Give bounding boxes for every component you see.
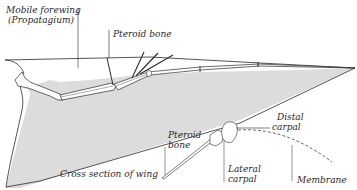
cross-section-membrane — [238, 130, 332, 162]
label-pteroid-bone: Pteroid bone — [113, 29, 172, 39]
label-pteroid-bone-detail: Pteroid bone — [168, 130, 201, 150]
label-distal-carpal-line1: Distal — [272, 112, 304, 122]
label-mobile-forewing-line1: Mobile forewing — [6, 5, 74, 15]
cross-section-distal-carpal — [222, 122, 238, 143]
label-pteroid-detail-line2: bone — [168, 140, 201, 150]
label-distal-carpal: Distal carpal — [272, 112, 304, 132]
label-mobile-forewing-line2: (Propatagium) — [6, 15, 74, 25]
label-pteroid-detail-line1: Pteroid — [168, 130, 201, 140]
pteroid-wing-diagram — [0, 0, 357, 190]
label-membrane: Membrane — [297, 175, 347, 185]
label-lateral-carpal-line1: Lateral — [228, 164, 261, 174]
label-lateral-carpal-line2: carpal — [228, 174, 261, 184]
label-distal-carpal-line2: carpal — [272, 122, 304, 132]
label-cross-section: Cross section of wing — [60, 169, 158, 179]
label-lateral-carpal: Lateral carpal — [228, 164, 261, 184]
label-mobile-forewing: Mobile forewing (Propatagium) — [6, 5, 74, 25]
propatagium-body-edge — [5, 60, 24, 74]
